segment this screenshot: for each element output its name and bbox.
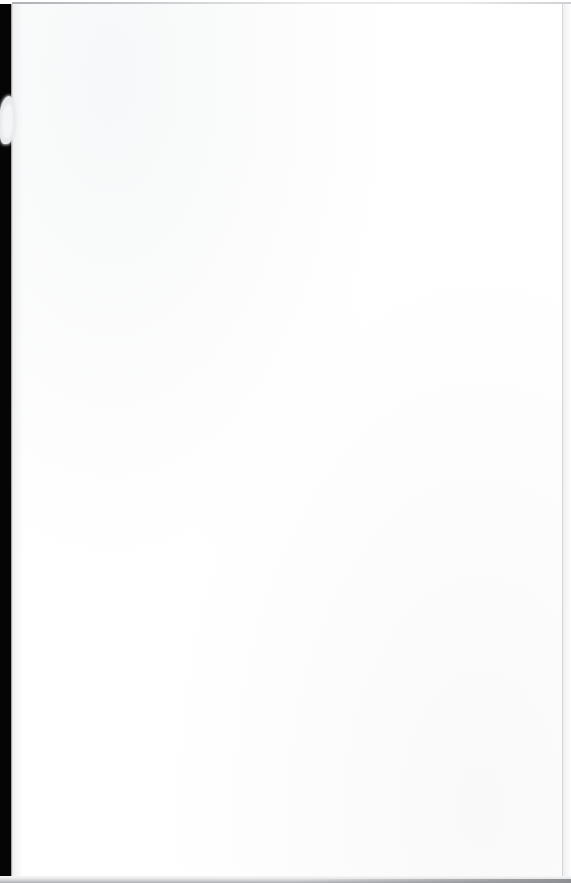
scanner-bottom-band-accent	[300, 879, 571, 883]
page-edge-notch-highlight	[2, 104, 13, 138]
page-content-area	[46, 40, 536, 840]
page-right-edge-shadow	[563, 4, 571, 876]
scan-top-seam-line	[12, 2, 571, 4]
scan-viewport	[0, 0, 571, 883]
left-page-edge-shading	[13, 4, 23, 876]
